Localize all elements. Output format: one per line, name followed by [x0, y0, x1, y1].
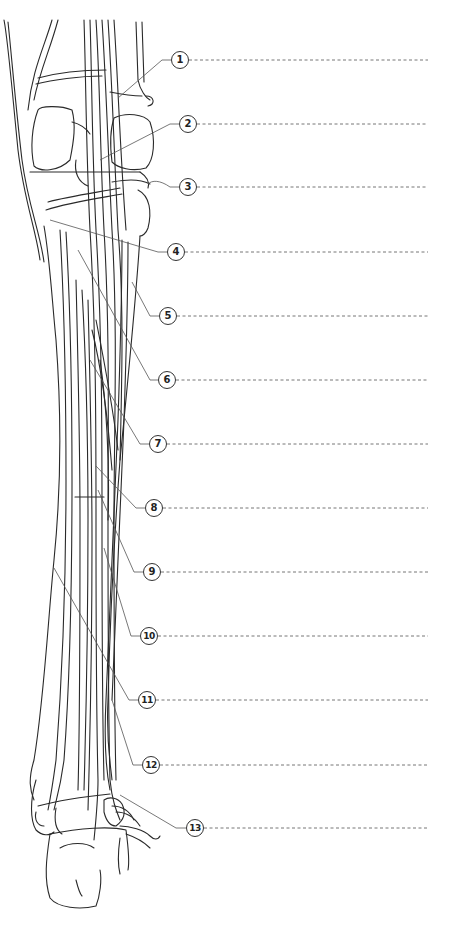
- callout-12: 12: [142, 756, 160, 774]
- leg-anatomy-diagram: 1 2 3 4 5 6 7 8 9 10 11 12 13: [0, 0, 451, 928]
- callout-5: 5: [159, 307, 177, 325]
- leg-illustration: [0, 0, 451, 928]
- callout-1: 1: [171, 51, 189, 69]
- answer-lines: [156, 60, 428, 828]
- callout-7: 7: [149, 435, 167, 453]
- callout-11: 11: [138, 691, 156, 709]
- callout-3: 3: [179, 178, 197, 196]
- callout-8: 8: [145, 499, 163, 517]
- callout-9: 9: [143, 563, 161, 581]
- callout-2: 2: [179, 115, 197, 133]
- callout-4: 4: [167, 243, 185, 261]
- callout-6: 6: [158, 371, 176, 389]
- callout-10: 10: [140, 627, 158, 645]
- callout-13: 13: [186, 819, 204, 837]
